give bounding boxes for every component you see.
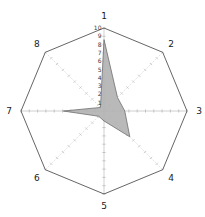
radial-tick-label: 2	[98, 90, 102, 97]
radial-tick-label: 5	[98, 66, 102, 73]
axis-label-7: 7	[6, 106, 12, 116]
radial-tick-label: 7	[98, 49, 102, 56]
axis-label-6: 6	[34, 173, 40, 183]
axis-label-1: 1	[101, 11, 107, 21]
radial-tick-label: 6	[98, 57, 102, 64]
axis-label-5: 5	[101, 201, 107, 211]
radar-chart: 1234567891012345678	[0, 0, 205, 217]
axis-label-8: 8	[34, 39, 40, 49]
radial-tick-label: 10	[94, 24, 102, 31]
radar-chart-svg: 1234567891012345678	[0, 0, 205, 217]
radial-tick-label: 8	[98, 41, 102, 48]
axis-label-2: 2	[168, 39, 174, 49]
radial-tick-label: 9	[98, 32, 102, 39]
axis-label-3: 3	[196, 106, 202, 116]
radial-tick-label: 3	[98, 82, 102, 89]
radial-tick-label: 1	[98, 99, 102, 106]
axis-label-4: 4	[168, 173, 174, 183]
radial-tick-label: 4	[98, 74, 102, 81]
